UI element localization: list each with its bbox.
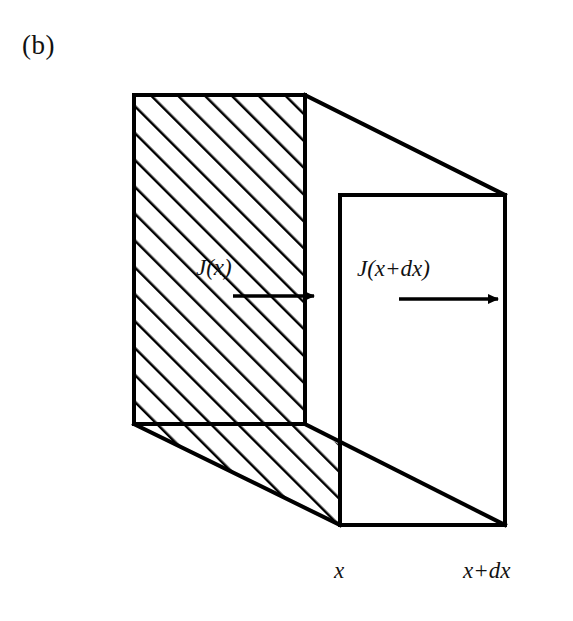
- flux-in-label: J(x): [196, 255, 232, 281]
- position-x-plus-dx-label: x+dx: [463, 558, 510, 584]
- panel-letter-label: (b): [22, 30, 55, 61]
- flux-out-label: J(x+dx): [357, 256, 430, 282]
- figure-container: (b) J(x) J(x+dx) x x+dx: [0, 0, 573, 621]
- position-x-label: x: [334, 558, 344, 584]
- slab-diagram: [0, 0, 573, 621]
